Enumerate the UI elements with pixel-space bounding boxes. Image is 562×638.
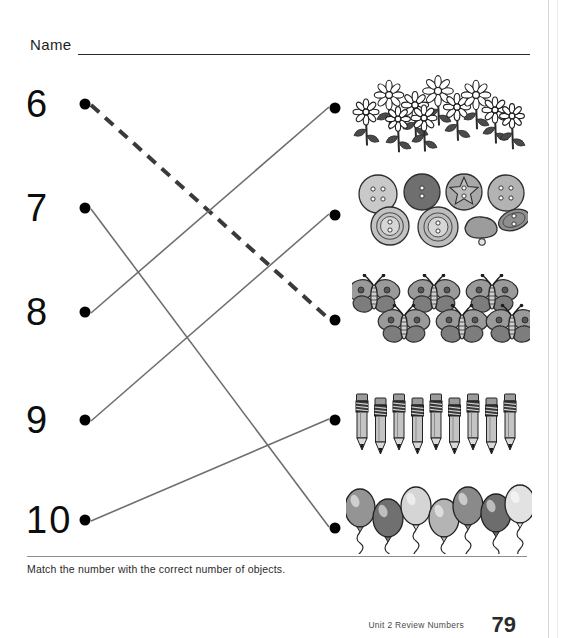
page-edge-line xyxy=(548,0,549,638)
name-row: Name xyxy=(30,36,530,60)
butterfly xyxy=(352,274,402,314)
dot-right-flowers[interactable] xyxy=(330,103,341,114)
connector-6-to-butterflies xyxy=(91,105,329,319)
dot-left-10[interactable] xyxy=(80,515,91,526)
dot-left-8[interactable] xyxy=(80,307,91,318)
worksheet-page: Name 6 7 8 9 10 Match the number with th… xyxy=(0,0,562,638)
pencils-illustration xyxy=(354,388,528,454)
connector-8-to-flowers xyxy=(91,107,329,313)
balloon xyxy=(401,487,431,554)
number-10: 10 xyxy=(26,501,86,539)
button xyxy=(488,175,524,211)
dot-left-9[interactable] xyxy=(80,415,91,426)
dot-left-6[interactable] xyxy=(80,99,91,110)
footer-unit-label: Unit 2 Review Numbers xyxy=(368,620,464,630)
butterfly xyxy=(464,274,521,314)
pencil xyxy=(393,394,405,450)
balloons-illustration xyxy=(346,482,532,554)
footer-divider xyxy=(27,556,527,557)
page-number: 79 xyxy=(492,612,516,638)
dot-right-balloons[interactable] xyxy=(330,523,341,534)
butterfly xyxy=(484,304,530,344)
number-7: 7 xyxy=(26,189,86,227)
button xyxy=(371,207,409,245)
connector-10-to-pencils xyxy=(91,419,329,521)
connector-9-to-buttons xyxy=(91,214,329,421)
flower xyxy=(500,104,525,150)
dot-left-7[interactable] xyxy=(80,203,91,214)
name-write-line[interactable] xyxy=(78,54,530,55)
pencil xyxy=(356,394,368,450)
button xyxy=(418,207,458,247)
number-9: 9 xyxy=(26,401,86,439)
pencil xyxy=(486,398,498,454)
button xyxy=(465,217,497,245)
instruction-text: Match the number with the correct number… xyxy=(27,563,285,575)
picture-group-balloons xyxy=(346,482,532,554)
number-8: 8 xyxy=(26,293,86,331)
balloon xyxy=(373,499,403,554)
name-label: Name xyxy=(30,36,72,53)
button xyxy=(404,174,440,210)
picture-group-buttons xyxy=(356,172,528,250)
picture-group-butterflies xyxy=(352,274,530,352)
pencil xyxy=(467,394,479,450)
pencil xyxy=(449,398,461,454)
page-footer: Unit 2 Review Numbers 79 xyxy=(330,612,530,638)
dot-right-butterflies[interactable] xyxy=(330,315,341,326)
pencil xyxy=(375,398,387,454)
butterfly xyxy=(406,274,463,314)
butterflies-illustration xyxy=(352,274,530,348)
flower xyxy=(353,99,379,145)
balloon xyxy=(453,487,483,554)
buttons-illustration xyxy=(356,172,528,250)
flowers-illustration xyxy=(352,62,530,154)
picture-group-flowers xyxy=(352,62,530,154)
dot-right-pencils[interactable] xyxy=(330,415,341,426)
pencil xyxy=(430,394,442,450)
page-edge-line-outer xyxy=(557,0,558,638)
pencil xyxy=(504,394,516,450)
dot-right-buttons[interactable] xyxy=(330,210,341,221)
picture-group-pencils xyxy=(354,388,528,454)
button xyxy=(446,174,482,210)
connector-7-to-balloons xyxy=(91,209,329,527)
balloon xyxy=(346,489,375,554)
number-6: 6 xyxy=(26,85,86,123)
pencil xyxy=(412,398,424,454)
